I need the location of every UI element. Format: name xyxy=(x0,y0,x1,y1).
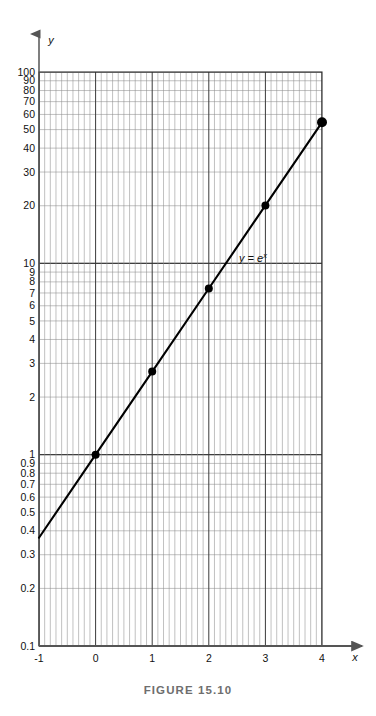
x-tick-labels: -101234 xyxy=(34,652,325,664)
y-tick-label: 0.3 xyxy=(20,548,35,560)
y-tick-label: 60 xyxy=(23,108,35,120)
y-tick-label: 10 xyxy=(23,257,35,269)
y-axis-label: y xyxy=(47,34,55,46)
y-tick-label: 4 xyxy=(29,333,35,345)
y-tick-label: 70 xyxy=(23,95,35,107)
data-point-marker xyxy=(148,368,156,376)
y-tick-label: 40 xyxy=(23,142,35,154)
y-tick-label: 1 xyxy=(29,448,35,460)
data-point-marker xyxy=(205,284,213,292)
x-axis-label: x xyxy=(351,651,358,663)
x-tick-label: 2 xyxy=(206,652,212,664)
y-tick-label: 3 xyxy=(29,357,35,369)
data-point-marker xyxy=(261,201,269,209)
grid-layer xyxy=(39,72,322,646)
y-tick-label: 0.7 xyxy=(20,478,35,490)
curve-equation-base: y = e xyxy=(238,252,263,264)
y-tick-label: 0.4 xyxy=(20,524,35,536)
data-point-marker xyxy=(92,451,100,459)
y-tick-label: 6 xyxy=(29,299,35,311)
x-tick-label: 1 xyxy=(149,652,155,664)
y-tick-label: 30 xyxy=(23,166,35,178)
y-tick-label: 0.5 xyxy=(20,506,35,518)
figure-container: x y 0.10.20.30.40.50.60.70.80.9123456789… xyxy=(0,0,376,716)
x-tick-label: 0 xyxy=(93,652,99,664)
x-tick-label: 4 xyxy=(319,652,325,664)
x-tick-label: -1 xyxy=(34,652,43,664)
y-tick-label: 50 xyxy=(23,123,35,135)
y-tick-labels: 0.10.20.30.40.50.60.70.80.91234567891020… xyxy=(17,66,35,652)
y-tick-label: 100 xyxy=(17,66,35,78)
y-tick-label: 5 xyxy=(29,315,35,327)
y-tick-label: 7 xyxy=(29,287,35,299)
y-tick-label: 0.2 xyxy=(20,582,35,594)
curve-equation-exponent: x xyxy=(262,251,267,260)
curve-equation-label: y = ex xyxy=(238,251,267,264)
y-tick-label: 0.6 xyxy=(20,491,35,503)
y-tick-label: 0.1 xyxy=(20,640,35,652)
x-tick-label: 3 xyxy=(262,652,268,664)
semilog-plot: x y 0.10.20.30.40.50.60.70.80.9123456789… xyxy=(0,0,376,716)
y-tick-label: 20 xyxy=(23,199,35,211)
y-tick-label: 2 xyxy=(29,391,35,403)
data-point-marker xyxy=(317,117,327,127)
figure-caption: FIGURE 15.10 xyxy=(0,684,376,696)
